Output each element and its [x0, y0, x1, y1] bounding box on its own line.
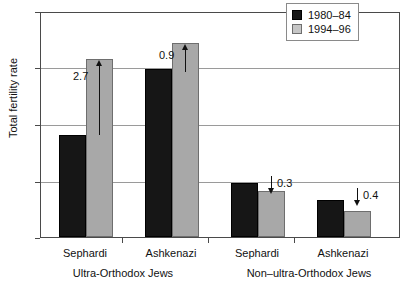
annotation-arrow-head-1 — [96, 60, 102, 66]
annotation-arrow-head-3 — [268, 188, 274, 194]
annotation-arrow-line-1 — [99, 66, 100, 135]
annotation-arrow-line-4 — [357, 188, 358, 200]
x-tick-mark-1 — [122, 238, 123, 243]
bar-nonultra-sephardi-1980-84 — [231, 183, 258, 237]
legend-swatch-icon-1994-96 — [292, 24, 302, 34]
legend-item-1980-84: 1980–84 — [292, 8, 351, 22]
bar-ultra-ashkenazi-1994-96 — [172, 43, 199, 237]
y-axis-title: Total fertility rate — [7, 23, 19, 173]
legend: 1980–84 1994–96 — [286, 3, 359, 41]
x-tick-mark-2 — [208, 238, 209, 243]
bar-ultra-ashkenazi-1980-84 — [145, 69, 172, 237]
y-tick-mark-1 — [35, 238, 40, 239]
bar-nonultra-ashkenazi-1980-84 — [317, 200, 344, 237]
legend-label-1994-96: 1994–96 — [308, 24, 351, 35]
bar-nonultra-sephardi-1994-96 — [258, 191, 285, 237]
x-label-nonultra-ashkenazi: Ashkenazi — [303, 248, 383, 259]
group-label-ultra-orthodox: Ultra-Orthodox Jews — [38, 268, 208, 279]
annotation-label-3: 0.3 — [277, 178, 292, 189]
annotation-arrow-head-4 — [354, 200, 360, 206]
bar-nonultra-ashkenazi-1994-96 — [344, 211, 371, 237]
x-label-ultra-sephardi: Sephardi — [45, 248, 125, 259]
legend-swatch-icon-1980-84 — [292, 10, 302, 20]
annotation-arrow-line-3 — [271, 176, 272, 188]
x-tick-mark-3 — [294, 238, 295, 243]
group-label-non-ultra-orthodox: Non–ultra-Orthodox Jews — [224, 268, 394, 279]
annotation-label-1: 2.7 — [73, 71, 88, 82]
x-label-ultra-ashkenazi: Ashkenazi — [131, 248, 211, 259]
bar-ultra-sephardi-1980-84 — [59, 135, 86, 237]
x-label-nonultra-sephardi: Sephardi — [217, 248, 297, 259]
annotation-label-4: 0.4 — [363, 190, 378, 201]
annotation-arrow-line-2 — [185, 50, 186, 72]
annotation-label-2: 0.9 — [159, 50, 174, 61]
plot-area: 2.7 0.9 0.3 0.4 — [40, 12, 400, 238]
legend-label-1980-84: 1980–84 — [308, 10, 351, 21]
annotation-arrow-head-2 — [182, 44, 188, 50]
fertility-rate-bar-chart: Total fertility rate 9 7 5 3 1 2.7 0.9 — [0, 0, 409, 289]
legend-item-1994-96: 1994–96 — [292, 22, 351, 36]
